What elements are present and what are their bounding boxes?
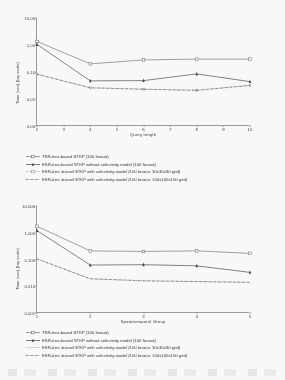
legend-spatiotemporal-group: TSR-tree-based STKP (100 fanout)ESR-tree… <box>0 329 285 359</box>
legend-label: ESR-tree-based STKP without selectivity … <box>42 162 156 167</box>
figure-spatiotemporal-group: Time (sec) [log scale] 10,0001,0000,1000… <box>0 190 285 380</box>
legend-label: ESR-tree -based STKP with selectivity mo… <box>42 177 187 182</box>
legend-key-icon <box>26 352 40 359</box>
x-axis-title: Query length <box>37 132 249 137</box>
series-marker <box>89 63 92 66</box>
series-marker <box>36 229 38 233</box>
legend-item: TSR-tree-based STKP (100 fanout) <box>0 329 285 337</box>
legend-label: ESR-tree -based STKP with selectivity mo… <box>42 353 187 358</box>
plot-area-spatiotemporal-group: Time (sec) [log scale] 10,0001,0000,1000… <box>0 190 285 338</box>
series-marker <box>89 250 92 253</box>
series-marker <box>36 225 39 228</box>
axis-frame: 10,0001,0000,1000,0100,001 12345 Spatiot… <box>36 206 249 313</box>
legend-item: ESR-tree-based STKP without selectivity … <box>0 161 285 169</box>
series-marker <box>142 59 145 62</box>
series-marker <box>195 58 198 61</box>
series-line <box>37 44 250 81</box>
series-line <box>37 226 250 253</box>
page-footer-smudge <box>8 369 276 376</box>
legend-key-icon <box>26 337 40 344</box>
series-marker <box>196 72 198 76</box>
scanned-page: Time (sec) [log scale] 10,001,000,100,01… <box>0 0 285 380</box>
series-marker <box>249 252 252 255</box>
legend-item: ESR-tree -based STKP with selectivity mo… <box>0 352 285 360</box>
legend-label: ESR-tree-based STKP without selectivity … <box>42 338 156 343</box>
y-axis-title: Time (sec) [log scale] <box>15 248 20 290</box>
axis-frame: 10,001,000,100,010,00 2345678910 Query l… <box>36 18 249 126</box>
series-marker <box>195 250 198 253</box>
plot-area-query-length: Time (sec) [log scale] 10,001,000,100,01… <box>0 0 285 148</box>
x-axis-title: Spatiotemporal Group <box>37 319 249 324</box>
figure-query-length: Time (sec) [log scale] 10,001,000,100,01… <box>0 0 285 190</box>
legend-label: ESR-tree -based STKP with selectivity mo… <box>42 169 180 174</box>
series-marker <box>142 250 145 253</box>
series-line <box>37 74 250 90</box>
legend-item: ESR-tree -based STKP with selectivity mo… <box>0 344 285 352</box>
legend-query-length: TSR-tree-based STKP (100 fanout)ESR-tree… <box>0 153 285 183</box>
legend-item: ESR-tree -based STKP with selectivity mo… <box>0 168 285 176</box>
series-marker <box>249 58 252 61</box>
legend-key-icon <box>26 168 40 175</box>
legend-key-icon <box>26 344 40 351</box>
series-line <box>37 259 250 282</box>
legend-key-icon <box>26 176 40 183</box>
legend-label: ESR-tree -based STKP with selectivity mo… <box>42 345 180 350</box>
legend-item: TSR-tree-based STKP (100 fanout) <box>0 153 285 161</box>
y-axis-title: Time (sec) [log scale] <box>15 62 20 104</box>
legend-label: TSR-tree-based STKP (100 fanout) <box>42 330 109 335</box>
legend-item: ESR-tree -based STKP with selectivity mo… <box>0 176 285 184</box>
legend-key-icon <box>26 329 40 336</box>
legend-key-icon <box>26 161 40 168</box>
legend-label: TSR-tree-based STKP (100 fanout) <box>42 154 109 159</box>
series-plot <box>37 18 250 126</box>
series-plot <box>37 206 250 313</box>
legend-key-icon <box>26 153 40 160</box>
legend-item: ESR-tree-based STKP without selectivity … <box>0 337 285 345</box>
